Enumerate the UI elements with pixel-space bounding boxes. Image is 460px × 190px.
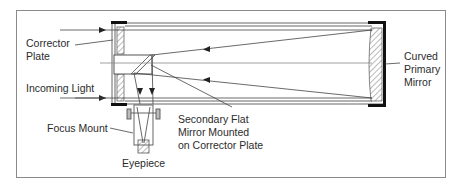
label-curved-line3: Mirror xyxy=(404,76,440,89)
label-focus-mount: Focus Mount xyxy=(47,122,108,135)
focus-mount xyxy=(127,105,160,145)
label-curved-line1: Curved xyxy=(404,50,440,63)
label-curved-primary-mirror: Curved Primary Mirror xyxy=(404,50,440,89)
label-curved-line2: Primary xyxy=(404,63,440,76)
label-secondary-line1: Secondary Flat xyxy=(178,113,263,126)
label-eyepiece: Eyepiece xyxy=(122,157,165,170)
eyepiece xyxy=(138,140,149,153)
telescope-diagram xyxy=(0,0,460,190)
label-secondary-line3: on Corrector Plate xyxy=(178,139,263,152)
label-incoming-light: Incoming Light xyxy=(26,82,94,95)
label-secondary-line2: Mirror Mounted xyxy=(178,126,263,139)
curved-primary-mirror xyxy=(369,28,382,101)
label-corrector-line2: Plate xyxy=(26,50,70,63)
incoming-light-rays xyxy=(60,30,372,98)
label-corrector-plate: Corrector Plate xyxy=(26,37,70,63)
reflected-rays xyxy=(134,30,372,104)
secondary-baffle xyxy=(114,55,152,74)
label-corrector-line1: Corrector xyxy=(26,37,70,50)
label-secondary-mirror: Secondary Flat Mirror Mounted on Correct… xyxy=(178,113,263,152)
